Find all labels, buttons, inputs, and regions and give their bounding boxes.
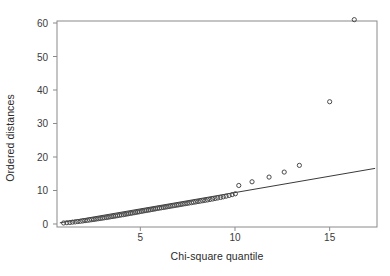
- data-point: [297, 163, 301, 167]
- plot-canvas: [0, 0, 390, 276]
- qq-plot: Ordered distances Chi-square quantile 01…: [0, 0, 390, 276]
- data-point: [237, 183, 241, 187]
- data-point: [328, 100, 332, 104]
- data-point: [267, 175, 271, 179]
- data-point: [250, 180, 254, 184]
- data-point: [282, 170, 286, 174]
